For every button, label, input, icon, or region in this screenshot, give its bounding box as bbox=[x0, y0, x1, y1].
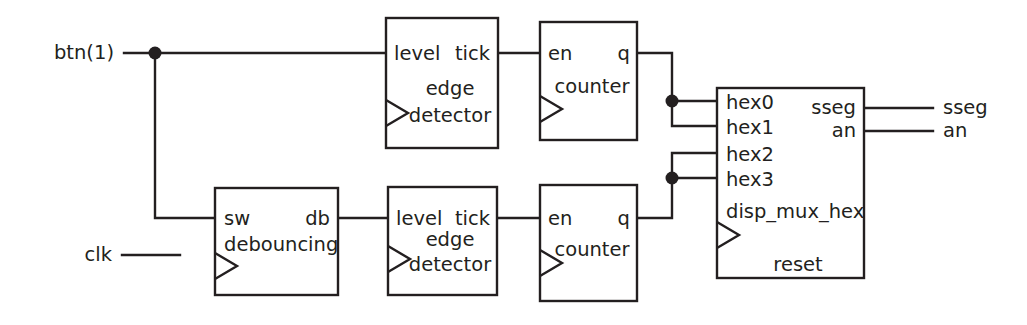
block-disp-mux-hex[interactable]: hex0 hex1 hex2 hex3 sseg an disp_mux_hex… bbox=[717, 88, 864, 278]
port-label-sw: sw bbox=[224, 207, 250, 230]
block-diagram: level tick edge detector en q counter sw… bbox=[0, 0, 1027, 325]
block-counter-top[interactable]: en q counter bbox=[540, 22, 637, 140]
block-name-counter: counter bbox=[554, 238, 630, 261]
block-debouncing[interactable]: sw db debouncing bbox=[215, 188, 338, 295]
wire-junction-top-to-hex1 bbox=[672, 101, 717, 126]
port-label-db: db bbox=[305, 207, 330, 230]
block-name-detector: detector bbox=[409, 104, 492, 127]
port-label-hex0: hex0 bbox=[726, 91, 774, 114]
port-label-tick: tick bbox=[455, 42, 491, 65]
wire-counter-q-bottom-to-junction bbox=[637, 178, 672, 218]
signal-label-btn: btn(1) bbox=[54, 41, 114, 64]
junction-dot-hex-bottom bbox=[666, 172, 679, 185]
port-label-an: an bbox=[832, 119, 856, 142]
port-label-en: en bbox=[548, 207, 572, 230]
port-label-tick: tick bbox=[455, 207, 491, 230]
port-label-hex1: hex1 bbox=[726, 116, 774, 139]
port-label-q: q bbox=[618, 42, 630, 65]
reset-label: reset bbox=[773, 253, 823, 276]
port-label-sseg: sseg bbox=[811, 96, 856, 119]
block-counter-bottom[interactable]: en q counter bbox=[540, 185, 637, 301]
signal-label-an-out: an bbox=[943, 119, 967, 142]
wire-counter-q-top-to-junction bbox=[637, 53, 672, 101]
block-name-detector: detector bbox=[409, 253, 492, 276]
port-label-hex3: hex3 bbox=[726, 168, 774, 191]
port-label-level: level bbox=[394, 42, 440, 65]
block-name-counter: counter bbox=[554, 75, 630, 98]
block-name-edge: edge bbox=[426, 77, 475, 100]
junction-dot-hex-top bbox=[666, 95, 679, 108]
wire-btn-branch-to-debouncing bbox=[155, 53, 215, 218]
signal-label-clk: clk bbox=[85, 243, 113, 266]
block-name-debouncing: debouncing bbox=[224, 233, 338, 256]
signal-label-sseg-out: sseg bbox=[943, 96, 988, 119]
schematic-canvas: level tick edge detector en q counter sw… bbox=[0, 0, 1027, 325]
port-label-en: en bbox=[548, 42, 572, 65]
block-edge-detector-bottom[interactable]: level tick edge detector bbox=[388, 187, 497, 295]
port-label-level: level bbox=[396, 207, 442, 230]
block-edge-detector-top[interactable]: level tick edge detector bbox=[386, 18, 498, 148]
block-name-edge: edge bbox=[426, 228, 475, 251]
wire-junction-bottom-to-hex2 bbox=[672, 153, 717, 178]
block-name-disp-mux-hex: disp_mux_hex bbox=[726, 200, 864, 223]
port-label-hex2: hex2 bbox=[726, 143, 774, 166]
port-label-q: q bbox=[618, 207, 630, 230]
junction-dot-btn bbox=[149, 47, 162, 60]
